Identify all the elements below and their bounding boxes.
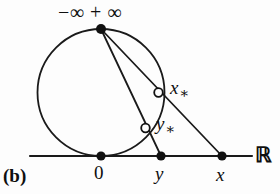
label-y-star-base: y xyxy=(156,113,164,134)
figure-container: −∞ + ∞ x∗ y∗ 0 y x ℝ (b) xyxy=(0,0,280,194)
axis-label-origin: 0 xyxy=(94,163,104,182)
point-x-star xyxy=(154,88,163,97)
axis-label-reals: ℝ xyxy=(255,145,272,166)
figure-caption: (b) xyxy=(3,166,26,185)
label-x-star-base: x xyxy=(170,77,178,98)
tangent-circle xyxy=(38,29,165,156)
point-apex-infinity xyxy=(96,24,106,34)
point-origin xyxy=(96,151,105,160)
diagram-canvas xyxy=(0,0,280,194)
label-y-star-subscript: ∗ xyxy=(165,121,175,137)
point-y-star xyxy=(141,124,150,133)
label-y-star: y∗ xyxy=(156,114,175,137)
point-x xyxy=(217,151,226,160)
axis-label-x: x xyxy=(216,165,224,184)
axis-label-y: y xyxy=(155,164,163,183)
apex-label-infinity: −∞ + ∞ xyxy=(58,2,122,22)
ray-apex-to-y xyxy=(101,29,161,156)
point-y xyxy=(156,151,165,160)
label-x-star: x∗ xyxy=(170,78,189,101)
label-x-star-subscript: ∗ xyxy=(179,85,189,101)
